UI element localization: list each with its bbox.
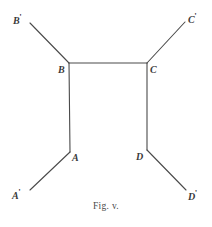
segment-d-to-dprime <box>147 150 186 190</box>
vertex-label-a-prime: A' <box>12 188 21 201</box>
segment-a-to-aprime <box>30 152 70 190</box>
vertex-label-d: D <box>136 152 143 162</box>
segment-c-to-cprime <box>147 22 185 63</box>
vertex-label-b-letter: B <box>58 64 65 75</box>
vertex-label-a-letter: A <box>72 152 79 163</box>
vertex-label-d-prime-mark: ' <box>195 188 198 198</box>
vertex-label-b: B <box>58 65 65 75</box>
segment-b-to-bprime <box>30 23 69 63</box>
figure-caption: Fig. v. <box>0 201 212 211</box>
segment-b-to-a <box>69 63 70 152</box>
vertex-label-b-prime: B' <box>13 13 22 26</box>
vertex-label-c: C <box>150 65 157 75</box>
vertex-label-d-letter: D <box>136 151 143 162</box>
vertex-label-c-letter: C <box>150 64 157 75</box>
figure-line-drawing <box>0 0 212 227</box>
vertex-label-a-prime-mark: ' <box>18 187 21 197</box>
vertex-label-c-prime-mark: ' <box>194 11 197 21</box>
vertex-label-a: A <box>72 153 79 163</box>
vertex-label-b-prime-mark: ' <box>19 12 22 22</box>
figure-container: B' C' B C A D A' D' Fig. v. <box>0 0 212 227</box>
vertex-label-c-prime: C' <box>188 12 197 25</box>
